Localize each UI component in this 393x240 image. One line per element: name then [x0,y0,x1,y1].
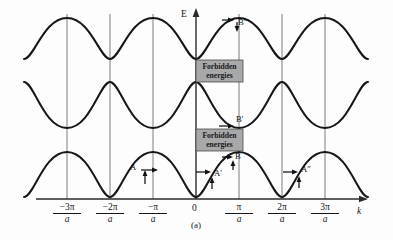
band-structure-figure: Forbidden energies Forbidden energies [0,0,393,240]
energy-axis [193,8,200,199]
point-label-Aprime: A′ [214,168,222,178]
point-label-Adblprime: A″ [301,164,311,174]
forbidden-gap-lower: Forbidden energies [196,129,243,151]
tick-label-mpi-numerator: −π [139,203,167,214]
point-label-Bdblprime: B″ [238,17,248,27]
tick-label-2pi: 2π a [268,203,296,224]
tick-label-pi-denominator: a [225,214,253,224]
figure-caption: (a) [191,220,201,230]
tick-label-3pi-numerator: 3π [311,203,339,214]
energy-axis-label: E [181,9,187,19]
point-label-Bprime: B′ [236,114,244,124]
forbidden-gap-lower-line2: energies [206,140,233,149]
point-label-B: B [235,151,241,161]
wavevector-axis [36,196,368,202]
tick-label-mpi: −π a [139,203,167,224]
tick-label-3pi: 3π a [311,203,339,224]
tick-label-m3pi: −3π a [53,203,81,224]
tick-label-2pi-numerator: 2π [268,203,296,214]
arrow-Aprime-horizontal-head [205,170,211,175]
tick-label-2pi-denominator: a [268,214,296,224]
tick-label-3pi-denominator: a [311,214,339,224]
arrow-A-horizontal-head [152,168,158,173]
tick-label-pi-numerator: π [225,203,253,214]
energy-axis-arrowhead [193,8,200,17]
forbidden-gap-lower-line1: Forbidden [202,131,237,140]
annotation-arrows-B [222,155,235,170]
tick-label-mpi-denominator: a [139,214,167,224]
arrow-Adblprime-horizontal-head [292,170,298,175]
tick-label-pi: π a [225,203,253,224]
tick-label-m2pi-numerator: −2π [96,203,124,214]
wavevector-axis-label: k [357,206,362,216]
tick-label-m3pi-denominator: a [53,214,81,224]
forbidden-gap-upper-line1: Forbidden [202,62,237,71]
tick-label-m3pi-numerator: −3π [53,203,81,214]
tick-label-m2pi: −2π a [96,203,124,224]
forbidden-gap-upper: Forbidden energies [196,60,243,82]
tick-label-zero: 0 [192,203,197,213]
forbidden-gap-upper-line2: energies [206,71,233,80]
arrow-A-vertical-head [143,170,148,176]
annotation-arrows-A [141,168,158,184]
point-label-A: A [130,162,137,172]
tick-label-m2pi-denominator: a [96,214,124,224]
